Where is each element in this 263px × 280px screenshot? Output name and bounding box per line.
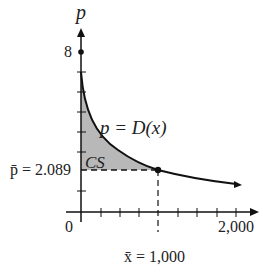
y-intercept-point (78, 49, 84, 55)
p-bar-label: p̄ = 2.089 (10, 162, 71, 178)
y-axis-label: p (76, 2, 86, 22)
x-bar-label: x̄ = 1,000 (124, 249, 185, 265)
demand-curve-plot (0, 0, 263, 280)
x-axis-arrow-icon (250, 208, 259, 216)
curve-arrow-icon (234, 181, 242, 188)
y-axis-arrow-icon (77, 28, 85, 37)
origin-label: 0 (65, 219, 73, 235)
equilibrium-point (155, 167, 161, 173)
x-tick-label-2000: 2,000 (218, 219, 254, 235)
curve-label: p = D(x) (100, 118, 167, 137)
cs-label: CS (85, 154, 105, 171)
y-tick-label-8: 8 (64, 44, 72, 60)
